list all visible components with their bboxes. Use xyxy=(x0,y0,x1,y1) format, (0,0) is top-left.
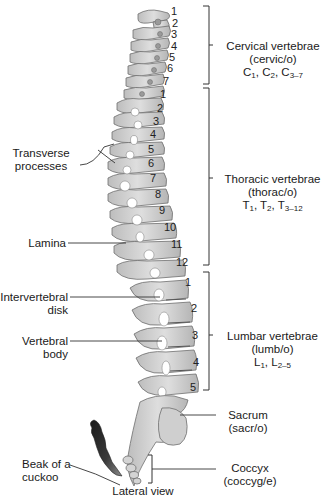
c-num: 3 xyxy=(171,29,177,40)
l-num: 4 xyxy=(193,357,199,368)
t-num: 10 xyxy=(164,222,176,233)
t-num: 8 xyxy=(155,189,161,200)
thoracic-label: Thoracic vertebrae (thorac/o) T1, T2, T3… xyxy=(216,173,329,215)
t-num: 2 xyxy=(157,103,163,114)
l-num: 5 xyxy=(190,382,196,393)
beak-of-cuckoo xyxy=(90,420,122,476)
c-num: 7 xyxy=(163,76,169,87)
coccyx-combining-form: (coccyg/e) xyxy=(214,475,286,488)
thoracic-combining-form: (thorac/o) xyxy=(216,186,329,199)
thoracic-notation: T1, T2, T3–12 xyxy=(216,199,329,215)
lumbar-name: Lumbar vertebrae xyxy=(216,330,329,343)
spine-diagram: 1 2 3 4 5 6 7 1 2 3 4 5 6 7 8 9 10 11 12… xyxy=(0,0,329,499)
coccyx-name: Coccyx xyxy=(214,462,286,475)
l-num: 1 xyxy=(185,277,191,288)
lumbar-label: Lumbar vertebrae (lumb/o) L1, L2–5 xyxy=(216,330,329,372)
l-num: 3 xyxy=(192,330,198,341)
coccyx-label: Coccyx (coccyg/e) xyxy=(214,462,286,488)
l-num: 2 xyxy=(191,303,197,314)
c-num: 6 xyxy=(167,63,173,74)
t-num: 4 xyxy=(150,129,156,140)
t-num: 9 xyxy=(159,205,165,216)
t-num: 7 xyxy=(150,173,156,184)
thoracic-name: Thoracic vertebrae xyxy=(216,173,329,186)
t-num: 12 xyxy=(176,257,188,268)
t-num: 3 xyxy=(153,116,159,127)
caption: Lateral view xyxy=(108,485,178,498)
lumbar-notation: L1, L2–5 xyxy=(216,356,329,372)
beak-of-cuckoo-label: Beak of a cuckoo xyxy=(22,458,72,484)
lamina-label: Lamina xyxy=(22,237,66,250)
sacrum-label: Sacrum (sacr/o) xyxy=(218,409,278,435)
intervertebral-disk-label: Intervertebral disk xyxy=(0,291,68,317)
t-num: 1 xyxy=(160,89,166,100)
cervical-combining-form: (cervic/o) xyxy=(217,53,329,66)
sacrum-name: Sacrum xyxy=(218,409,278,422)
transverse-processes-label: Transverse processes xyxy=(6,147,76,173)
cervical-name: Cervical vertebrae xyxy=(217,40,329,53)
t-num: 6 xyxy=(148,158,154,169)
c-num: 1 xyxy=(171,6,177,17)
vertebral-body-label: Vertebral body xyxy=(10,335,68,361)
sacrum-combining-form: (sacr/o) xyxy=(218,422,278,435)
cervical-notation: C1, C2, C3–7 xyxy=(217,66,329,82)
t-num: 11 xyxy=(171,239,182,250)
lumbar-combining-form: (lumb/o) xyxy=(216,343,329,356)
t-num: 5 xyxy=(148,144,154,155)
cervical-label: Cervical vertebrae (cervic/o) C1, C2, C3… xyxy=(217,40,329,82)
